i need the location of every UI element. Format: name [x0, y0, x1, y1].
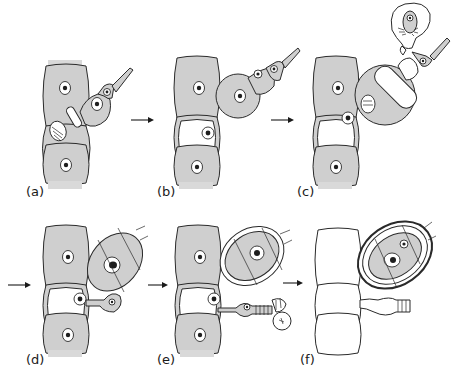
panel-e — [175, 214, 295, 357]
panel-label-a: (a) — [26, 184, 44, 199]
filament-cell-top — [174, 56, 220, 120]
filament-cell-bottom — [313, 145, 359, 187]
male-branch-antheridium — [218, 298, 291, 330]
dwarf-male-branch — [86, 294, 121, 312]
arrow-a-to-b — [131, 117, 154, 123]
filament-cell-bottom — [174, 145, 220, 187]
filament-cell-top — [43, 225, 89, 289]
filament-cell-top — [315, 228, 361, 292]
filament-cell-top — [313, 56, 359, 120]
panel-f — [315, 207, 445, 355]
panel-d — [43, 222, 154, 357]
oospore-walled — [209, 214, 296, 297]
filament-cell-bottom — [315, 313, 361, 355]
panel-b — [174, 48, 300, 189]
dividing-zygote — [355, 46, 420, 125]
released-spore — [391, 3, 430, 48]
panel-label-e: (e) — [157, 352, 175, 367]
arrow-b-to-c — [271, 117, 294, 123]
panel-c — [313, 3, 450, 189]
filament-cell-bottom — [175, 313, 221, 355]
panel-a — [43, 60, 134, 189]
filament-cell-top — [43, 64, 89, 128]
filament-tip — [412, 38, 450, 66]
mature-oospore — [345, 207, 445, 302]
panel-label-f: (f) — [300, 352, 315, 367]
zygote-cell — [216, 48, 300, 118]
arrow-c-to-d — [8, 282, 31, 288]
panel-label-d: (d) — [26, 352, 44, 367]
filament-cell-bottom — [43, 313, 89, 355]
arrow-d-to-e — [148, 282, 168, 288]
filament-cell-top — [175, 225, 221, 289]
panel-label-c: (c) — [297, 184, 314, 199]
filament-cell-bottom — [43, 143, 89, 185]
arrow-e-to-f — [283, 280, 303, 286]
panel-label-b: (b) — [157, 184, 175, 199]
dwarf-male-empty — [360, 298, 410, 315]
diagram-canvas — [0, 0, 461, 375]
